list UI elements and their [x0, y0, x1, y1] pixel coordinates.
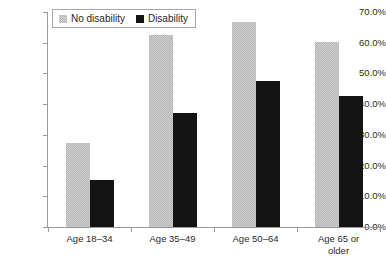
x-axis-tick	[48, 227, 49, 232]
x-axis-category-label: Age 65 orolder	[297, 233, 380, 256]
bar-disability	[90, 180, 114, 227]
legend-label: Disability	[148, 13, 188, 24]
x-axis-tick	[380, 227, 381, 232]
x-axis-tick	[131, 227, 132, 232]
bar-disability	[256, 81, 280, 227]
bar-no-disability	[232, 22, 256, 227]
legend-item-disability: Disability	[136, 13, 188, 24]
y-axis-tick-label: 70.0%	[345, 7, 386, 17]
x-axis-category-label: Age 50–64	[214, 233, 297, 245]
bar-disability	[173, 113, 197, 227]
bar-no-disability	[66, 143, 90, 227]
legend-swatch-icon	[136, 15, 144, 23]
bar-chart: 0.0%10.0%20.0%30.0%40.0%50.0%60.0%70.0% …	[0, 0, 386, 274]
x-axis-category-label: Age 35–49	[131, 233, 214, 245]
y-axis-line	[47, 12, 48, 228]
chart-legend: No disability Disability	[52, 9, 196, 28]
legend-label: No disability	[71, 13, 125, 24]
x-axis-category-label: Age 18–34	[48, 233, 131, 245]
y-axis-tick-label: 60.0%	[345, 38, 386, 48]
bar-disability	[339, 96, 363, 227]
y-axis-tick-label: 50.0%	[345, 68, 386, 78]
x-axis-tick	[214, 227, 215, 232]
bar-no-disability	[149, 35, 173, 227]
legend-swatch-icon	[59, 15, 67, 23]
bar-no-disability	[315, 42, 339, 227]
legend-item-no-disability: No disability	[59, 13, 125, 24]
x-axis-tick	[297, 227, 298, 232]
